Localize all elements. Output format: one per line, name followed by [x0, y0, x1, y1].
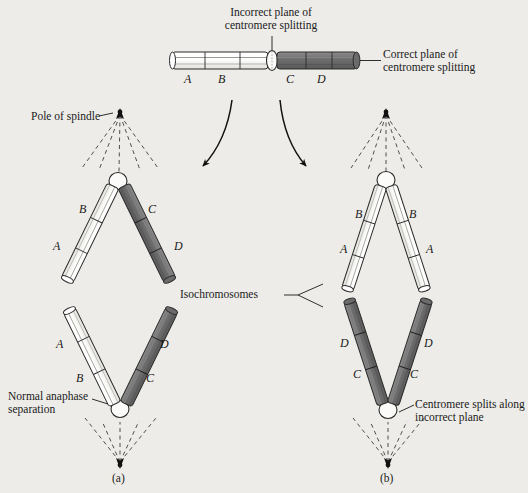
- label-incorrect-split: Centromere splits along incorrect plane: [415, 398, 528, 424]
- segment-label-a-upper-a: A: [53, 240, 60, 252]
- segment-label-a-lower-d: D: [160, 338, 169, 350]
- segment-label-top-a: A: [184, 73, 191, 85]
- segment-label-a-upper-c: C: [148, 203, 156, 215]
- segment-label-b-lower-d-right: D: [424, 337, 433, 349]
- segment-label-a-upper-d: D: [174, 240, 183, 252]
- leader-incorrect-split: [399, 405, 414, 412]
- panel-label-a: (a): [112, 472, 125, 484]
- arrow-to-panel-b: [280, 100, 306, 166]
- segment-label-b-upper-a-left: A: [340, 243, 347, 255]
- segment-label-b-upper-b-left: B: [355, 208, 362, 220]
- leader-pole-of-spindle: [99, 113, 113, 116]
- label-incorrect-plane: Incorrect plane of centromere splitting: [196, 6, 346, 32]
- segment-label-a-lower-c: C: [146, 372, 154, 384]
- segment-label-b-upper-b-right: B: [409, 208, 416, 220]
- arrow-to-panel-a: [203, 100, 232, 166]
- label-isochromosomes: Isochromosomes: [180, 288, 258, 301]
- segment-label-a-lower-a: A: [56, 338, 63, 350]
- label-normal-anaphase: Normal anaphase separation: [8, 390, 118, 416]
- top-chromosome: [170, 51, 360, 71]
- segment-label-top-b: B: [218, 73, 225, 85]
- label-correct-plane: Correct plane of centromere splitting: [383, 48, 518, 74]
- segment-label-b-lower-c-right: C: [410, 368, 418, 380]
- segment-label-a-lower-b: B: [76, 372, 83, 384]
- panel-b-upper-isochromosome: [341, 172, 431, 294]
- panel-b-upper-spindle-fibers: [351, 115, 422, 172]
- figure-canvas: Incorrect plane of centromere splitting …: [0, 0, 528, 493]
- segment-label-b-upper-a-right: A: [426, 243, 433, 255]
- segment-label-a-upper-b: B: [79, 203, 86, 215]
- panel-a-upper-spindle-fibers: [82, 115, 158, 172]
- label-pole-of-spindle: Pole of spindle: [31, 110, 100, 123]
- segment-label-top-c: C: [286, 73, 294, 85]
- panel-a-upper-chromosome: [60, 173, 176, 285]
- segment-label-b-lower-c-left: C: [353, 368, 361, 380]
- panel-a-lower-spindle-fibers: [85, 418, 156, 462]
- panel-b-lower-spindle-fibers: [353, 418, 424, 462]
- panel-label-b: (b): [380, 472, 393, 484]
- segment-label-b-lower-d-left: D: [340, 337, 349, 349]
- leader-isochromosomes: [284, 284, 323, 307]
- segment-label-top-d: D: [317, 73, 326, 85]
